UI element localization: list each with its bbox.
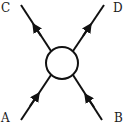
label-b: B [114, 111, 123, 125]
vertex-circle [46, 47, 78, 79]
label-a: A [0, 111, 10, 125]
line-c [21, 5, 51, 51]
line-b [73, 75, 102, 120]
line-a [21, 75, 51, 120]
label-d: D [113, 1, 123, 15]
label-c: C [1, 1, 10, 15]
scattering-diagram: C D A B [0, 0, 123, 129]
line-d [73, 5, 104, 51]
